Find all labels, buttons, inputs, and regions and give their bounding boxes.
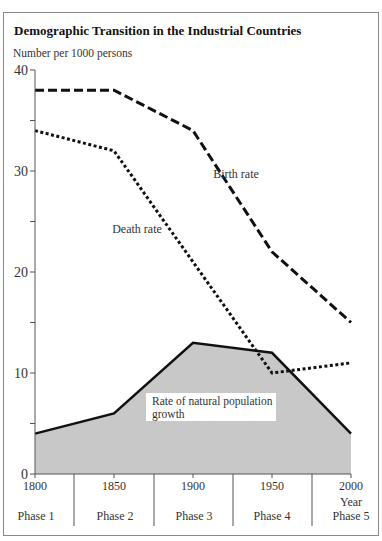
y-tick-label: 40: [14, 63, 28, 78]
chart-plot: 01020304018001850190019502000YearPhase 1…: [0, 0, 382, 541]
phase-label: Phase 3: [176, 509, 213, 523]
x-tick-label: 1800: [23, 479, 47, 493]
growth-label: Rate of natural population growth: [146, 393, 276, 421]
x-tick-label: 1900: [181, 479, 205, 493]
growth-label-line1: Rate of natural population: [152, 395, 276, 408]
y-tick-label: 20: [14, 265, 28, 280]
growth-label-line2: growth: [152, 408, 276, 421]
birth-rate-line: [35, 90, 351, 322]
phase-label: Phase 2: [97, 509, 134, 523]
birth-rate-label: Birth rate: [213, 167, 259, 181]
x-tick-label: 1950: [260, 479, 284, 493]
death-rate-label: Death rate: [112, 222, 162, 236]
y-tick-label: 30: [14, 164, 28, 179]
x-axis-label: Year: [340, 495, 362, 509]
death-rate-line: [35, 131, 351, 373]
phase-label: Phase 4: [254, 509, 291, 523]
phase-label: Phase 5: [333, 509, 370, 523]
phase-label: Phase 1: [18, 509, 55, 523]
y-tick-label: 10: [14, 366, 28, 381]
x-tick-label: 1850: [102, 479, 126, 493]
x-tick-label: 2000: [339, 479, 363, 493]
